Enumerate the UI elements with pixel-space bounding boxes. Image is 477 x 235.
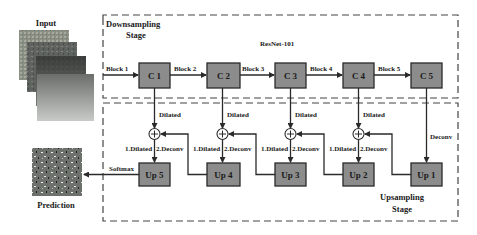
sum-node-4 <box>353 129 364 140</box>
encoder-node-c4: C 4 <box>343 63 374 88</box>
encoder-node-c1: C 1 <box>139 63 170 88</box>
merge-dilated-label-1: 1.Dilated <box>125 145 152 153</box>
merge-deconv-label-3: 2.Deconv <box>292 145 320 153</box>
merge-deconv-label-2: 2.Deconv <box>224 145 252 153</box>
backbone-label: ResNet-101 <box>260 40 295 48</box>
decoder-node-up1: Up 1 <box>411 163 442 186</box>
upsampling-stage-title: Upsampling <box>380 192 425 202</box>
dilated-label-4: Dilated <box>363 111 385 119</box>
block-4-label: Block 4 <box>310 65 333 73</box>
dilated-label-2: Dilated <box>227 111 249 119</box>
svg-text:C 2: C 2 <box>217 71 231 81</box>
svg-text:Up 2: Up 2 <box>349 170 368 180</box>
dilated-label-3: Dilated <box>295 111 317 119</box>
block-1-label: Block 1 <box>106 65 129 73</box>
decoder-node-up3: Up 3 <box>275 163 306 186</box>
svg-text:Up 5: Up 5 <box>145 170 164 180</box>
downsampling-stage-subtitle: Stage <box>126 30 146 40</box>
encoder-node-c2: C 2 <box>207 63 240 88</box>
sum-node-3 <box>285 129 296 140</box>
merge-deconv-label-1: 2.Deconv <box>156 145 184 153</box>
decoder-node-up2: Up 2 <box>343 163 374 186</box>
sum-node-2 <box>217 129 228 140</box>
svg-text:C 1: C 1 <box>148 71 162 81</box>
sum-node-1 <box>149 129 160 140</box>
upsampling-stage-subtitle: Stage <box>392 204 412 214</box>
prediction-label: Prediction <box>37 200 75 210</box>
decoder-node-up5: Up 5 <box>139 163 170 186</box>
prediction-image <box>32 148 82 196</box>
downsampling-stage-title: Downsampling <box>106 19 161 29</box>
encoder-node-c5: C 5 <box>411 63 442 88</box>
svg-text:Up 4: Up 4 <box>214 170 233 180</box>
svg-text:C 5: C 5 <box>420 71 434 81</box>
merge-dilated-label-2: 1.Dilated <box>193 145 220 153</box>
encoder-node-c3: C 3 <box>275 63 306 88</box>
input-label: Input <box>36 18 56 28</box>
dilated-label-1: Dilated <box>159 111 181 119</box>
block-3-label: Block 3 <box>242 65 265 73</box>
decoder-node-up4: Up 4 <box>207 163 240 186</box>
svg-text:Up 1: Up 1 <box>417 170 436 180</box>
block-2-label: Block 2 <box>174 65 197 73</box>
softmax-label: Softmax <box>109 165 134 173</box>
input-image-stack <box>19 30 94 121</box>
block-5-label: Block 5 <box>378 65 401 73</box>
svg-text:C 3: C 3 <box>284 71 298 81</box>
merge-dilated-label-4: 1.Dilated <box>329 145 356 153</box>
svg-text:C 4: C 4 <box>352 71 366 81</box>
merge-deconv-label-4: 2.Deconv <box>360 145 388 153</box>
merge-dilated-label-3: 1.Dilated <box>261 145 288 153</box>
svg-text:Up 3: Up 3 <box>281 170 300 180</box>
resnet-segmentation-diagram: Input Prediction Downsampling Stage ResN… <box>0 0 477 235</box>
deconv-label: Deconv <box>430 133 453 141</box>
